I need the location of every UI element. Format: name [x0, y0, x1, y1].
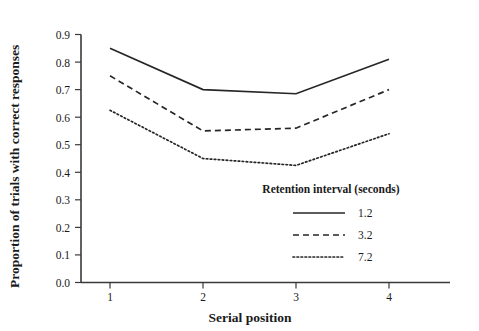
x-tick-label: 1: [107, 291, 113, 303]
x-tick-label: 2: [200, 291, 206, 303]
series-line-1-2: [110, 48, 389, 93]
y-tick-label: 0.8: [56, 57, 71, 69]
y-tick-label: 0.2: [56, 222, 71, 234]
chart-figure: Proportion of trials with correct respon…: [0, 0, 479, 331]
y-tick-label: 0.1: [56, 249, 71, 261]
legend: Retention interval (seconds) 1.2 3.2 7.2: [262, 183, 400, 263]
x-tick-labels: 1 2 3 4: [107, 291, 392, 303]
y-tick-label: 0.7: [56, 84, 71, 96]
legend-item-3-2[interactable]: 3.2: [293, 229, 373, 241]
series-line-7-2: [110, 110, 389, 165]
series-line-3-2: [110, 76, 389, 131]
y-tick-label: 0.6: [56, 112, 71, 124]
y-axis-title: Proportion of trials with correct respon…: [7, 45, 22, 288]
y-tick-labels: 0.0 0.1 0.2 0.3 0.4 0.5 0.6 0.7 0.8 0.9: [56, 29, 71, 289]
x-axis-title: Serial position: [209, 310, 292, 325]
y-tick-label: 0.9: [56, 29, 71, 41]
y-tick-label: 0.3: [56, 194, 71, 206]
legend-label: 7.2: [358, 251, 373, 263]
legend-title: Retention interval (seconds): [262, 183, 400, 196]
legend-label: 1.2: [358, 207, 373, 219]
line-chart: Proportion of trials with correct respon…: [0, 0, 479, 331]
x-tick-label: 3: [293, 291, 299, 303]
legend-label: 3.2: [358, 229, 373, 241]
y-tick-marks: [75, 35, 81, 283]
y-tick-label: 0.5: [56, 139, 71, 151]
x-tick-label: 4: [386, 291, 392, 303]
legend-item-1-2[interactable]: 1.2: [293, 207, 373, 219]
y-tick-label: 0.0: [56, 277, 71, 289]
x-tick-marks: [110, 283, 389, 289]
legend-item-7-2[interactable]: 7.2: [293, 251, 373, 263]
y-tick-label: 0.4: [56, 167, 71, 179]
